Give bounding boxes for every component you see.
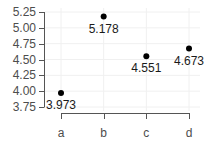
data-point xyxy=(143,53,149,59)
x-tick-label: d xyxy=(186,126,193,140)
x-tick-label: b xyxy=(100,126,107,140)
y-tick-label: 5.25 xyxy=(13,5,37,19)
data-point xyxy=(58,90,64,96)
data-label: 4.673 xyxy=(174,54,204,68)
data-label: 4.551 xyxy=(131,61,161,75)
x-tick-label: c xyxy=(143,126,149,140)
data-point xyxy=(186,46,192,52)
x-tick-label: a xyxy=(58,126,65,140)
y-tick-label: 3.75 xyxy=(13,100,37,114)
data-point xyxy=(101,14,107,20)
y-tick-label: 5.00 xyxy=(13,21,37,35)
data-label: 5.178 xyxy=(89,22,119,36)
scatter-chart: 3.754.004.254.504.755.005.25 abcd 3.9735… xyxy=(0,0,206,149)
y-tick-label: 4.50 xyxy=(13,53,37,67)
y-tick-label: 4.00 xyxy=(13,84,37,98)
y-tick-label: 4.25 xyxy=(13,68,37,82)
y-axis: 3.754.004.254.504.755.005.25 xyxy=(13,5,45,114)
x-axis: abcd xyxy=(58,113,193,140)
y-tick-label: 4.75 xyxy=(13,37,37,51)
data-label: 3.973 xyxy=(46,98,76,112)
